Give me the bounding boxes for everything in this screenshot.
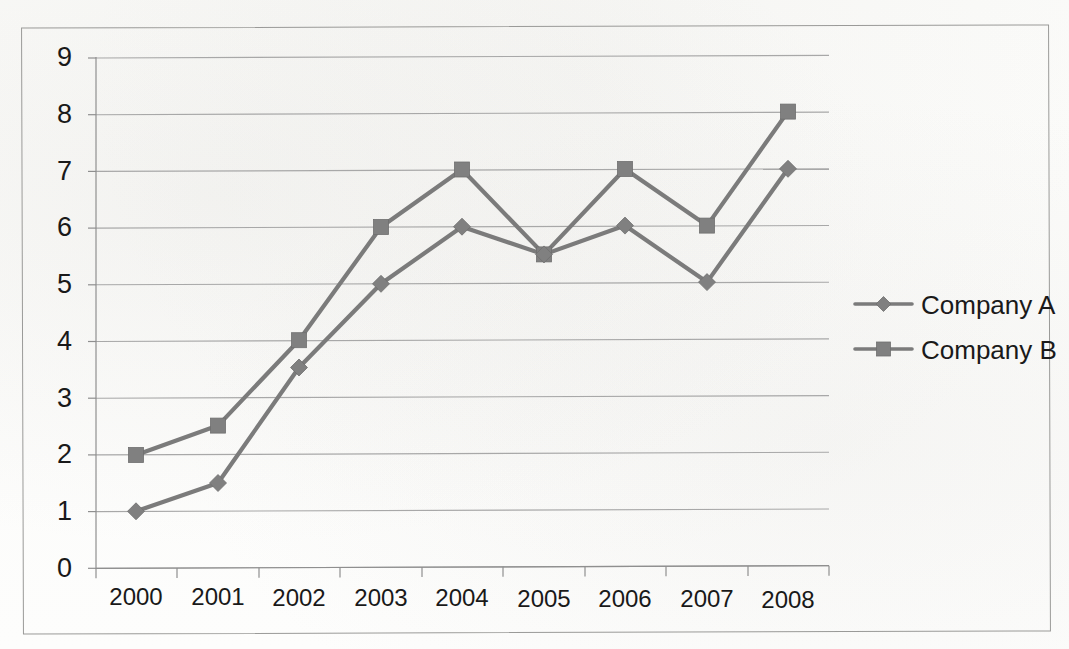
y-tick-label: 0 bbox=[26, 553, 72, 584]
x-tick-label: 2000 bbox=[91, 583, 181, 611]
gridlines bbox=[96, 55, 829, 568]
y-tick-label: 9 bbox=[26, 42, 72, 73]
line-chart-plot bbox=[0, 0, 1069, 649]
x-tick-label: 2005 bbox=[499, 585, 589, 613]
y-axis bbox=[88, 57, 96, 569]
x-tick-label: 2002 bbox=[254, 584, 344, 612]
y-tick-label: 6 bbox=[26, 212, 72, 243]
y-tick-label: 8 bbox=[26, 99, 72, 130]
y-tick-label: 5 bbox=[26, 269, 72, 300]
legend-swatch-company-b bbox=[855, 342, 912, 356]
legend-item-company-b[interactable]: Company B bbox=[921, 335, 1057, 366]
y-tick-label: 4 bbox=[26, 326, 72, 357]
y-tick-label: 2 bbox=[26, 439, 72, 470]
x-axis bbox=[96, 566, 829, 579]
chart-page: 9 8 7 6 5 4 3 2 1 0 2000 2001 2002 2003 … bbox=[0, 0, 1069, 649]
legend-item-company-a[interactable]: Company A bbox=[921, 290, 1055, 321]
x-tick-label: 2008 bbox=[743, 586, 833, 614]
x-tick-label: 2007 bbox=[662, 585, 752, 613]
legend-swatch-company-a bbox=[855, 297, 912, 312]
x-tick-label: 2006 bbox=[580, 585, 670, 613]
x-tick-label: 2003 bbox=[336, 584, 426, 612]
y-tick-label: 1 bbox=[26, 496, 72, 527]
y-tick-label: 7 bbox=[26, 156, 72, 187]
x-tick-label: 2004 bbox=[417, 584, 507, 612]
x-tick-label: 2001 bbox=[173, 583, 263, 611]
y-tick-label: 3 bbox=[26, 383, 72, 414]
